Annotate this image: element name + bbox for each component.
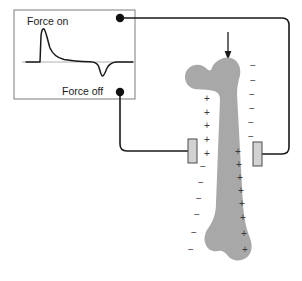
charge-sign: − [196,193,202,204]
force-off-label: Force off [62,85,103,97]
charge-sign: − [198,177,204,188]
charge-sign: + [239,198,245,209]
charge-sign: + [238,185,244,196]
charge-sign: − [191,227,197,238]
charge-symbols-right-upper: − − − − − − [248,60,256,142]
charge-sign: + [235,146,241,157]
charge-sign: − [200,161,206,172]
charge-sign: − [250,75,256,86]
force-off-terminal[interactable] [116,88,124,96]
charge-sign: + [236,159,242,170]
charge-sign: − [250,60,256,71]
charge-symbols-left-upper: + + + + + [204,93,210,159]
charge-sign: − [249,103,255,114]
force-off-wire [120,92,188,151]
charge-sign: + [204,120,210,131]
charge-sign: − [248,117,254,128]
charge-symbols-left-lower: − − − − − − [188,161,206,255]
charge-sign: + [240,212,246,223]
left-electrode[interactable] [188,139,197,163]
charge-sign: + [204,93,210,104]
force-on-terminal[interactable] [116,14,124,22]
charge-sign: − [249,89,255,100]
charge-sign: − [188,244,194,255]
charge-sign: + [242,244,248,255]
bone-piezoelectricity-diagram: Force on Force off + + + + + − − [0,0,302,281]
applied-force-arrow [225,32,232,60]
right-electrode[interactable] [253,142,262,166]
charge-sign: − [194,209,200,220]
charge-sign: + [241,228,247,239]
charge-sign: + [237,172,243,183]
force-on-label: Force on [27,15,69,27]
charge-sign: − [248,131,254,142]
charge-sign: + [204,107,210,118]
charge-sign: + [204,134,210,145]
charge-sign: + [204,148,210,159]
